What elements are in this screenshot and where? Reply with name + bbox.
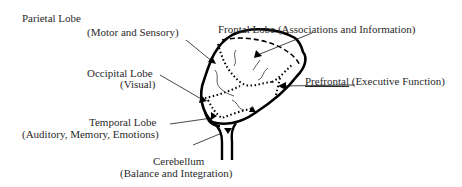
parietal-boundary [218,44,272,86]
parietal-lobe-label: Parietal Lobe [22,12,81,24]
temporal-lobe-desc: (Auditory, Memory, Emotions) [22,128,159,140]
gyrus-1 [234,50,236,66]
gyrus-2 [253,60,260,70]
occipital-boundary [205,86,240,98]
temporal-leader [170,118,212,124]
gyri-lines [215,50,268,110]
prefrontal-name: Prefrontal [305,75,349,87]
leader-lines [160,33,355,145]
brain-diagram: Parietal Lobe (Motor and Sensory) Fronta… [0,0,462,187]
temporal-lobe-label: Temporal Lobe [89,116,156,128]
gyrus-3 [258,68,268,80]
gyrus-5 [232,100,244,110]
prefrontal-label: Prefrontal (Executive Function) [305,75,445,87]
frontal-lobe-desc: (Associations and Information) [278,23,415,35]
cerebellum-label: Cerebellum [153,155,204,167]
frontal-lobe-name: Frontal Lobe [218,23,275,35]
stem-left [214,123,222,160]
frontal-lobe-label: Frontal Lobe (Associations and Informati… [218,23,415,35]
parietal-leader [186,40,213,62]
parietal-lobe-desc: (Motor and Sensory) [87,26,179,38]
arrow-temporal [211,112,217,120]
stem-right [232,123,236,160]
prefrontal-boundary-top [272,64,293,82]
lobe-boundaries [205,44,293,118]
occipital-leader [160,75,203,100]
prefrontal-desc: (Executive Function) [352,75,445,87]
occipital-lobe-desc: (Visual) [120,78,155,90]
cerebellum-desc: (Balance and Integration) [120,167,232,179]
cerebellum-leader [193,133,222,145]
